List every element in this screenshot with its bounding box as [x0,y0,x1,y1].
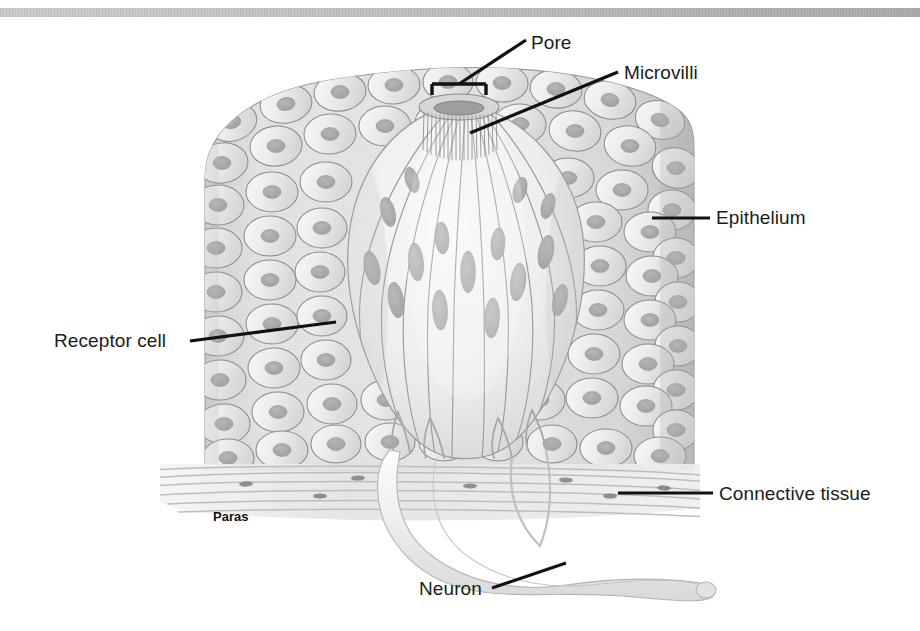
label-microvilli: Microvilli [624,63,698,82]
label-epithelium: Epithelium [716,208,806,227]
figure-page: Pore Microvilli Epithelium Receptor cell… [0,0,920,631]
label-connective-tissue: Connective tissue [719,484,871,503]
label-paras: Paras [213,510,248,523]
label-receptor-cell: Receptor cell [54,331,166,350]
label-neuron: Neuron [419,579,482,598]
label-pore: Pore [531,33,572,52]
taste-bud-illustration [0,0,920,631]
taste-pore [419,94,499,120]
